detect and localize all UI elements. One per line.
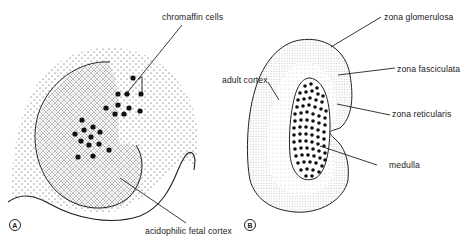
label-adult-cortex: adult cortex bbox=[222, 75, 268, 85]
adrenal-gland-diagram: chromaffin cells acidophilic fetal corte… bbox=[0, 0, 467, 242]
panel-b-letter: B bbox=[247, 222, 252, 229]
label-medulla: medulla bbox=[389, 160, 420, 170]
label-zona-reticularis: zona reticularis bbox=[392, 109, 451, 119]
label-zona-glomerulosa: zona glomerulosa bbox=[384, 12, 454, 22]
label-acidophilic-fetal-cortex: acidophilic fetal cortex bbox=[145, 226, 233, 236]
panel-b: zona glomerulosa zona fasciculata zona r… bbox=[222, 12, 460, 231]
label-zona-fasciculata: zona fasciculata bbox=[397, 64, 460, 74]
panel-a-letter: A bbox=[12, 222, 17, 229]
panel-a: chromaffin cells acidophilic fetal corte… bbox=[8, 12, 233, 236]
label-chromaffin-cells: chromaffin cells bbox=[162, 12, 223, 22]
